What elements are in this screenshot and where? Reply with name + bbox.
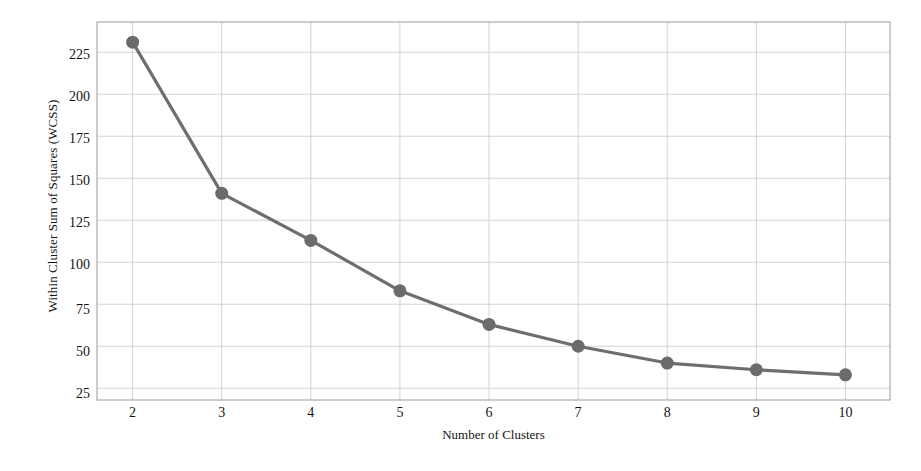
data-point-marker bbox=[750, 363, 763, 376]
data-point-marker bbox=[483, 318, 496, 331]
plot-area bbox=[0, 0, 921, 471]
data-point-marker bbox=[661, 357, 674, 370]
x-tick-label: 6 bbox=[469, 405, 509, 421]
elbow-method-chart: Within Cluster Sum of Squares (WCSS) 25 … bbox=[0, 0, 921, 471]
x-tick-label: 9 bbox=[736, 405, 776, 421]
data-point-marker bbox=[839, 368, 852, 381]
data-point-marker bbox=[126, 36, 139, 49]
x-tick-label: 3 bbox=[202, 405, 242, 421]
x-tick-label: 4 bbox=[291, 405, 331, 421]
x-tick-label: 10 bbox=[825, 405, 865, 421]
data-point-marker bbox=[572, 340, 585, 353]
gridlines bbox=[97, 22, 890, 400]
x-tick-label: 2 bbox=[113, 405, 153, 421]
data-point-marker bbox=[304, 234, 317, 247]
x-tick-label: 7 bbox=[558, 405, 598, 421]
plot-border bbox=[97, 22, 890, 400]
axis-frame bbox=[97, 22, 890, 400]
data-point-marker bbox=[215, 187, 228, 200]
x-tick-label: 5 bbox=[380, 405, 420, 421]
x-axis-title: Number of Clusters bbox=[97, 427, 890, 443]
data-point-marker bbox=[393, 284, 406, 297]
x-tick-label: 8 bbox=[647, 405, 687, 421]
